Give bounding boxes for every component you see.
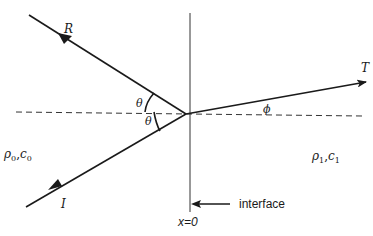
- reflected-ray: [29, 15, 186, 114]
- incident-arrow-icon: [48, 179, 62, 190]
- left-medium-label: ρ0,c0: [3, 147, 32, 163]
- reflected-angle-label: θ: [136, 97, 143, 110]
- reflected-angle-arc: [145, 93, 154, 112]
- right-medium-label: ρ1,c1: [311, 149, 340, 165]
- incident-ray: [26, 114, 186, 207]
- interface-label: interface: [239, 197, 285, 211]
- incident-angle-arc: [154, 112, 160, 131]
- svg-text:ρ0,c0: ρ0,c0: [3, 147, 32, 163]
- incident-label: I: [60, 197, 66, 211]
- interface-position-label: x=0: [177, 215, 198, 229]
- transmitted-ray: [186, 82, 366, 114]
- transmitted-label: T: [361, 61, 370, 75]
- incident-angle-label: θ: [145, 115, 152, 128]
- svg-text:ρ1,c1: ρ1,c1: [311, 149, 340, 165]
- transmitted-angle-label: ϕ: [263, 103, 271, 116]
- reflected-label: R: [63, 22, 73, 36]
- interface-diagram: R T I θ θ ϕ ρ0,c0 ρ1,c1 interface x=0: [0, 0, 373, 236]
